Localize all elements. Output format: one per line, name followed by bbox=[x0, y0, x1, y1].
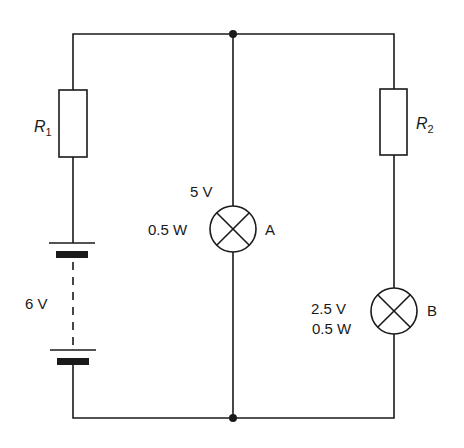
resistor-r1-label: R1 bbox=[34, 118, 52, 141]
lamp-b-power: 0.5 W bbox=[312, 320, 351, 337]
battery bbox=[49, 243, 96, 365]
resistor-r1-name: R bbox=[34, 118, 46, 135]
circuit-diagram bbox=[0, 0, 464, 448]
lamp-b-id: B bbox=[427, 302, 437, 319]
junction-top bbox=[229, 30, 237, 38]
resistor-r1 bbox=[59, 90, 87, 157]
lamp-a-voltage: 5 V bbox=[190, 183, 213, 200]
battery-voltage-label: 6 V bbox=[25, 295, 48, 312]
resistor-r1-subscript: 1 bbox=[46, 126, 52, 138]
lamp-a bbox=[210, 206, 256, 252]
lamp-b bbox=[371, 288, 417, 334]
junction-bottom bbox=[229, 414, 237, 422]
lamp-a-power: 0.5 W bbox=[148, 221, 187, 238]
resistor-r2 bbox=[380, 89, 407, 155]
resistor-r2-name: R bbox=[416, 115, 428, 132]
lamp-b-voltage: 2.5 V bbox=[311, 300, 346, 317]
resistor-r2-label: R2 bbox=[416, 115, 434, 138]
resistor-r2-subscript: 2 bbox=[428, 123, 434, 135]
lamp-a-id: A bbox=[265, 221, 275, 238]
